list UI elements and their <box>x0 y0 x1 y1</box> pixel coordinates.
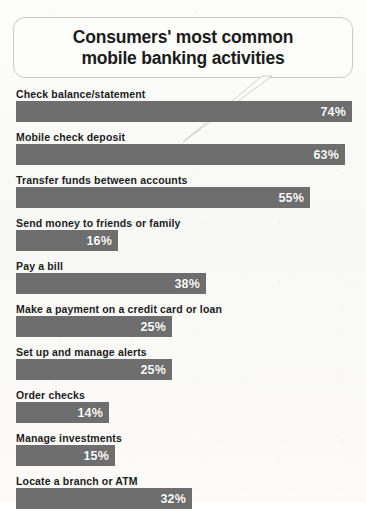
bar-value-label: 25% <box>140 363 166 377</box>
bar-value-label: 38% <box>174 277 200 291</box>
bar: 16% <box>16 230 118 251</box>
chart-row: Send money to friends or family16% <box>0 217 366 260</box>
chart-row: Check balance/statement74% <box>0 88 366 131</box>
bar-value-label: 25% <box>140 320 166 334</box>
chart-row: Order checks14% <box>0 389 366 432</box>
bar: 55% <box>16 187 310 208</box>
bar-category-label: Order checks <box>16 389 85 401</box>
bar: 32% <box>16 488 192 509</box>
bar-category-label: Check balance/statement <box>16 88 146 100</box>
title-speech-bubble: Consumers' most common mobile banking ac… <box>13 17 353 78</box>
bar-category-label: Mobile check deposit <box>16 131 125 143</box>
bar-value-label: 15% <box>83 449 109 463</box>
bar-category-label: Transfer funds between accounts <box>16 174 188 186</box>
chart-row: Locate a branch or ATM32% <box>0 475 366 513</box>
chart-row: Make a payment on a credit card or loan2… <box>0 303 366 346</box>
bar: 25% <box>16 316 172 337</box>
bar: 38% <box>16 273 206 294</box>
bar-category-label: Send money to friends or family <box>16 217 181 229</box>
bar-value-label: 55% <box>278 191 304 205</box>
bar-category-label: Make a payment on a credit card or loan <box>16 303 222 315</box>
bar-value-label: 74% <box>320 105 346 119</box>
bar-category-label: Pay a bill <box>16 260 63 272</box>
bar: 15% <box>16 445 115 466</box>
page-title: Consumers' most common mobile banking ac… <box>73 27 294 68</box>
bar-value-label: 32% <box>160 492 186 506</box>
chart-row: Manage investments15% <box>0 432 366 475</box>
chart-row: Pay a bill38% <box>0 260 366 303</box>
bar: 25% <box>16 359 172 380</box>
bar-chart: Check balance/statement74%Mobile check d… <box>0 88 366 513</box>
bar: 74% <box>16 101 352 122</box>
bar-value-label: 16% <box>86 234 112 248</box>
bar-value-label: 63% <box>313 148 339 162</box>
chart-row: Mobile check deposit63% <box>0 131 366 174</box>
chart-row: Set up and manage alerts25% <box>0 346 366 389</box>
bar-category-label: Locate a branch or ATM <box>16 475 138 487</box>
bar-category-label: Manage investments <box>16 432 122 444</box>
bar: 14% <box>16 402 109 423</box>
chart-row: Transfer funds between accounts55% <box>0 174 366 217</box>
bar-category-label: Set up and manage alerts <box>16 346 147 358</box>
bar: 63% <box>16 144 345 165</box>
bar-value-label: 14% <box>77 406 103 420</box>
